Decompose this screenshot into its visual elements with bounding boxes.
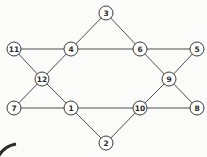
- nodes-layer: 123456789101112: [7, 6, 204, 150]
- node-10: 10: [133, 101, 147, 115]
- node-11: 11: [7, 42, 21, 56]
- node-label: 5: [194, 45, 199, 54]
- node-3: 3: [99, 6, 113, 20]
- node-label: 9: [166, 75, 171, 84]
- node-label: 1: [68, 104, 73, 113]
- node-label: 2: [103, 139, 108, 148]
- graph-svg: 123456789101112: [0, 0, 207, 157]
- node-label: 11: [9, 45, 19, 54]
- node-6: 6: [133, 42, 147, 56]
- node-12: 12: [35, 72, 49, 86]
- node-4: 4: [64, 42, 78, 56]
- node-label: 12: [37, 75, 47, 84]
- edge-3-4: [71, 13, 106, 49]
- node-label: 3: [103, 9, 108, 18]
- node-label: 8: [194, 104, 199, 113]
- node-label: 6: [137, 45, 142, 54]
- node-label: 4: [68, 45, 73, 54]
- node-2: 2: [99, 136, 113, 150]
- graph-diagram: 123456789101112: [0, 0, 207, 157]
- node-8: 8: [190, 101, 204, 115]
- node-label: 7: [11, 104, 16, 113]
- node-1: 1: [64, 101, 78, 115]
- node-9: 9: [162, 72, 176, 86]
- node-label: 10: [135, 104, 145, 113]
- node-5: 5: [190, 42, 204, 56]
- node-7: 7: [7, 101, 21, 115]
- scan-artifact: [0, 144, 16, 157]
